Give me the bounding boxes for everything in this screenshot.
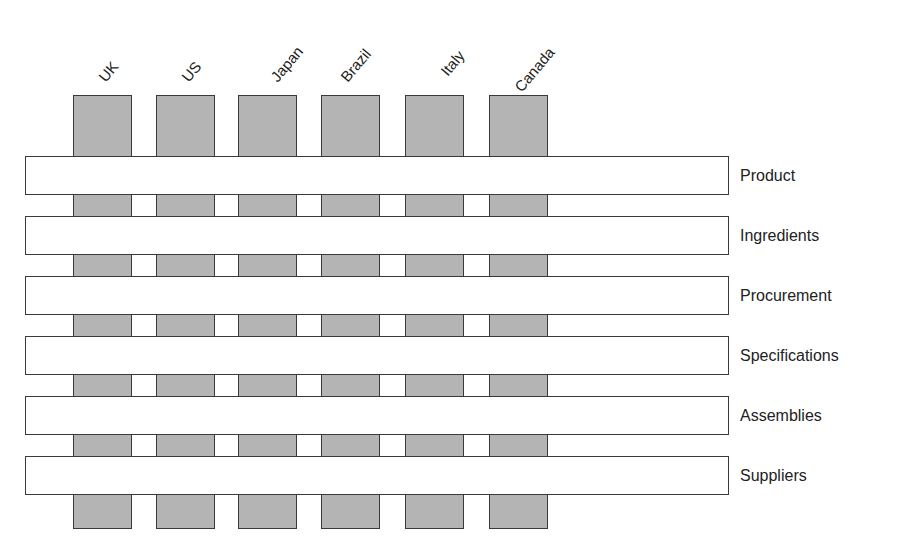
row-bar-suppliers	[25, 456, 729, 495]
row-bar-product	[25, 156, 729, 195]
column-label-italy: Italy	[437, 47, 468, 79]
column-label-canada: Canada	[511, 44, 558, 95]
column-label-uk: UK	[95, 58, 121, 85]
row-bar-ingredients	[25, 216, 729, 255]
row-bar-specifications	[25, 336, 729, 375]
row-label-product: Product	[740, 156, 795, 195]
column-label-us: US	[178, 58, 204, 85]
column-label-japan: Japan	[267, 43, 306, 85]
row-label-specifications: Specifications	[740, 336, 839, 375]
row-label-suppliers: Suppliers	[740, 456, 807, 495]
row-bar-procurement	[25, 276, 729, 315]
row-label-ingredients: Ingredients	[740, 216, 819, 255]
row-label-procurement: Procurement	[740, 276, 832, 315]
row-bar-assemblies	[25, 396, 729, 435]
column-label-brazil: Brazil	[337, 45, 374, 85]
row-label-assemblies: Assemblies	[740, 396, 822, 435]
